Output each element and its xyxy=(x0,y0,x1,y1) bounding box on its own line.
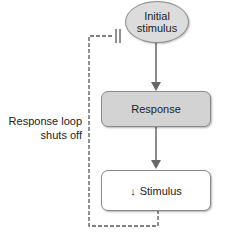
stimulus-node: ↓ Stimulus xyxy=(101,170,211,211)
initial-stimulus-line2: stimulus xyxy=(137,22,177,34)
arrowhead-icon xyxy=(151,160,161,169)
stimulus-label: Stimulus xyxy=(140,185,182,197)
arrowhead-icon xyxy=(151,82,161,91)
response-node: Response xyxy=(101,91,211,127)
down-arrow-icon: ↓ xyxy=(130,185,136,197)
loop-label: Response loop shuts off xyxy=(9,114,82,142)
response-label: Response xyxy=(131,103,181,115)
loop-label-line1: Response loop xyxy=(9,114,82,128)
initial-stimulus-node: Initial stimulus xyxy=(125,1,189,43)
loop-label-line2: shuts off xyxy=(9,128,82,142)
initial-stimulus-line1: Initial xyxy=(144,10,170,22)
